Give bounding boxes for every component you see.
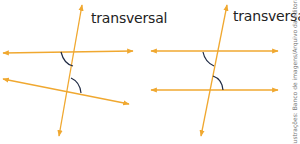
transversal-line: [201, 5, 227, 136]
transversal-line: [59, 5, 82, 136]
angle-arc: [213, 76, 223, 90]
line-a-line: [3, 51, 133, 53]
figure-parallel-lines: [151, 5, 278, 136]
credit-text: Ilustrações: Banco de imagens/Arquivo da…: [291, 0, 298, 144]
transversal-label-left: transversal: [91, 10, 167, 26]
image-credit: Ilustrações: Banco de imagens/Arquivo da…: [288, 0, 300, 144]
angle-arc: [71, 78, 81, 93]
line-b-line: [3, 79, 129, 104]
angle-arc: [203, 52, 214, 66]
